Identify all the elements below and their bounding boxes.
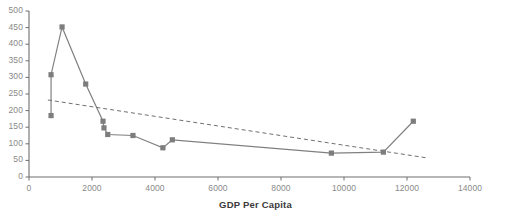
y-tick-label: 250 — [0, 88, 23, 98]
y-tick-label: 100 — [0, 138, 23, 148]
x-tick-label: 10000 — [321, 183, 367, 193]
axes-group — [26, 11, 471, 181]
x-tick-label: 8000 — [258, 183, 304, 193]
y-tick-label: 350 — [0, 55, 23, 65]
y-tick-label: 150 — [0, 121, 23, 131]
data-markers-group — [48, 24, 415, 155]
x-tick-label: 14000 — [447, 183, 493, 193]
chart-container: 050100150200250300350400450500 020004000… — [0, 0, 511, 219]
y-tick-label: 400 — [0, 38, 23, 48]
x-tick-label: 6000 — [195, 183, 241, 193]
y-tick-label: 500 — [0, 5, 23, 15]
x-tick-label: 12000 — [384, 183, 430, 193]
y-tick-label: 50 — [0, 154, 23, 164]
y-tick-label: 450 — [0, 22, 23, 32]
x-axis-title: GDP Per Capita — [0, 199, 511, 210]
y-tick-label: 200 — [0, 105, 23, 115]
y-tick-label: 300 — [0, 71, 23, 81]
x-tick-label: 2000 — [69, 183, 115, 193]
x-tick-label: 4000 — [132, 183, 178, 193]
y-tick-label: 0 — [0, 171, 23, 181]
x-tick-label: 0 — [6, 183, 52, 193]
